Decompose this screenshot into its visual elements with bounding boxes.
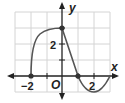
x-tick-label-2: 2 bbox=[89, 80, 95, 92]
y-axis-label: y bbox=[68, 1, 77, 15]
origin-label: O bbox=[51, 78, 61, 92]
point-neg2-0 bbox=[28, 73, 33, 78]
x-axis-label: x bbox=[110, 60, 119, 74]
x-axis-left-arrow-icon bbox=[7, 73, 14, 79]
y-tick-label-2: 2 bbox=[50, 39, 56, 51]
y-axis-down-arrow-icon bbox=[59, 93, 65, 100]
point-1-0 bbox=[75, 73, 80, 78]
x-tick-label-neg2: −2 bbox=[21, 80, 34, 92]
y-axis-up-arrow-icon bbox=[59, 2, 65, 9]
graph: y x 2 −2 O 2 bbox=[0, 0, 125, 103]
point-0-3 bbox=[59, 25, 64, 30]
